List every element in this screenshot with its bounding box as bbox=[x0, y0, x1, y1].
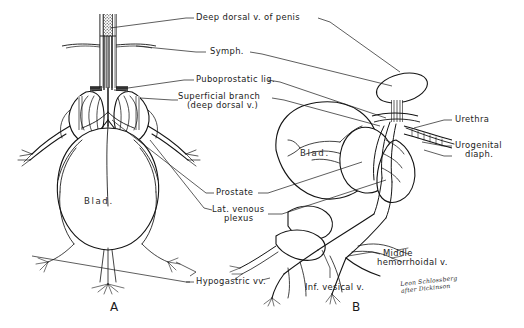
label-middle-hemorrhoidal-line2: hemorrhoidal v. bbox=[377, 258, 448, 267]
label-inferior-vesical-vein: Inf. vesical v. bbox=[305, 283, 364, 293]
figure-a-drawing bbox=[18, 14, 200, 294]
label-deep-dorsal-vein-of-penis: Deep dorsal v. of penis bbox=[196, 13, 300, 23]
label-superficial-branch-line2: (deep dorsal v.) bbox=[178, 101, 258, 110]
anatomical-plate: Deep dorsal v. of penis Symph. Puboprost… bbox=[0, 0, 524, 328]
penile-shaft-a bbox=[100, 14, 116, 90]
hypogastric-vein-b bbox=[230, 246, 278, 280]
label-symphysis: Symph. bbox=[210, 47, 244, 57]
organ-label-bladder-b: Blad. bbox=[300, 148, 330, 158]
label-puboprostatic-ligament: Puboprostatic lig. bbox=[196, 75, 275, 85]
label-urethra: Urethra bbox=[455, 115, 489, 125]
label-middle-hemorrhoidal-vein: Middle hemorrhoidal v. bbox=[383, 249, 469, 268]
panel-letter-b: B bbox=[352, 300, 361, 314]
urogenital-diaphragm-b bbox=[404, 126, 454, 148]
label-urogenital-diaph-line2: diaph. bbox=[455, 150, 493, 159]
label-urogenital-diaphragm: Urogenital diaph. bbox=[455, 141, 517, 160]
label-prostate: Prostate bbox=[216, 188, 253, 198]
label-hypogastric-veins: Hypogastric vv. bbox=[196, 277, 266, 287]
panel-letter-a: A bbox=[110, 300, 119, 314]
symphysis-penis-b bbox=[372, 68, 431, 122]
label-lat-venous-plexus-line2: plexus bbox=[212, 214, 253, 223]
organ-label-bladder-a: Blad. bbox=[84, 196, 114, 206]
label-lateral-venous-plexus: Lat. venous plexus bbox=[212, 205, 272, 224]
label-superficial-branch: Superficial branch (deep dorsal v.) bbox=[178, 92, 272, 111]
